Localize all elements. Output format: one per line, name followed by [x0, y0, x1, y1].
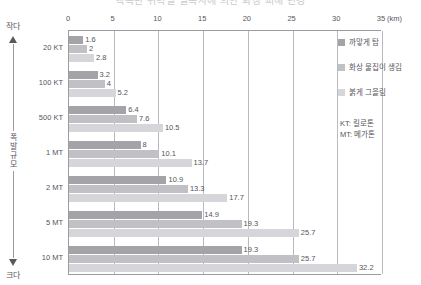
category-label: 20 KT [23, 43, 63, 52]
vertical-axis-bottom-label: 크다 [2, 271, 24, 280]
bar-value-label: 1.6 [85, 36, 95, 44]
category-labels: 20 KT100 KT500 KT1 MT2 MT5 MT10 MT [24, 30, 66, 275]
bar [69, 211, 202, 219]
bar [69, 255, 299, 263]
bar-group: 3.245.2 [69, 71, 381, 97]
bar-value-label: 8 [143, 141, 147, 149]
bar-value-label: 5.2 [118, 89, 128, 97]
bar-value-label: 10.9 [168, 176, 183, 184]
bar-value-label: 2.8 [96, 54, 106, 62]
category-label: 100 KT [23, 78, 63, 87]
vertical-axis-mid-label: 폭발규모 [8, 131, 19, 171]
bar [69, 264, 357, 272]
x-axis-unit-label: (km) [387, 14, 402, 23]
bar-value-label: 32.2 [359, 264, 374, 272]
bar-value-label: 13.3 [190, 185, 205, 193]
bar-group: 10.913.317.7 [69, 176, 381, 202]
bar-value-label: 19.3 [244, 246, 259, 254]
legend-swatch [338, 64, 345, 71]
bar-value-label: 3.2 [100, 71, 110, 79]
bar [69, 36, 83, 44]
x-tick-label: 30 [332, 14, 340, 23]
bar [69, 115, 137, 123]
x-tick-label: 15 [198, 14, 206, 23]
bar [69, 54, 94, 62]
bar-value-label: 25.7 [301, 229, 316, 237]
bar [69, 89, 116, 97]
vertical-axis-top-label: 작다 [2, 22, 24, 31]
bar [69, 176, 166, 184]
legend: 까맣게 탐화상 물집이 생김붉게 그을림 [338, 38, 418, 113]
bar-group: 14.919.325.7 [69, 211, 381, 237]
bar-value-label: 25.7 [301, 255, 316, 263]
abbreviation-note: KT: 킬로톤 MT: 메가톤 [340, 118, 375, 140]
arrow-down-icon [9, 259, 17, 266]
bar-value-label: 10.5 [165, 124, 180, 132]
bar-value-label: 17.7 [229, 194, 244, 202]
legend-item: 까맣게 탐 [338, 38, 418, 48]
bar [69, 141, 141, 149]
category-label: 1 MT [23, 148, 63, 157]
x-tick-label: 20 [243, 14, 251, 23]
x-tick-label: 5 [111, 14, 115, 23]
page-title: 핵폭탄 위력별 열복사에 의한 화상 피해 반경 [0, 0, 421, 6]
bar [69, 124, 163, 132]
bar-group: 6.47.610.5 [69, 106, 381, 132]
bar [69, 80, 105, 88]
chart-page: 핵폭탄 위력별 열복사에 의한 화상 피해 반경 작다 폭발규모 크다 20 K… [0, 0, 421, 285]
bar [69, 194, 227, 202]
bar-value-label: 13.7 [194, 159, 209, 167]
category-label: 10 MT [23, 253, 63, 262]
x-axis: 05101520253035(km) [68, 14, 381, 30]
bar-value-label: 4 [107, 80, 111, 88]
bar-value-label: 10.1 [161, 150, 176, 158]
bar [69, 185, 188, 193]
legend-swatch [338, 89, 345, 96]
bar-value-label: 6.4 [128, 106, 138, 114]
abbreviation-kt: KT: 킬로톤 [340, 118, 375, 129]
x-tick-label: 0 [66, 14, 70, 23]
category-label: 5 MT [23, 218, 63, 227]
bar [69, 220, 242, 228]
bar-value-label: 19.3 [244, 220, 259, 228]
bar-group: 1.622.8 [69, 36, 381, 62]
bar [69, 229, 299, 237]
vertical-magnitude-axis: 작다 폭발규모 크다 [2, 22, 24, 280]
legend-label: 붉게 그을림 [349, 88, 386, 97]
bar [69, 159, 192, 167]
category-label: 2 MT [23, 183, 63, 192]
legend-item: 붉게 그을림 [338, 88, 418, 98]
bar-value-label: 14.9 [204, 211, 219, 219]
abbreviation-mt: MT: 메가톤 [340, 129, 375, 140]
bar [69, 246, 242, 254]
x-tick-label: 25 [287, 14, 295, 23]
category-label: 500 KT [23, 113, 63, 122]
legend-swatch [338, 39, 345, 46]
bar [69, 106, 126, 114]
x-tick-label: 10 [153, 14, 161, 23]
legend-label: 화상 물집이 생김 [349, 63, 402, 72]
bar [69, 45, 87, 53]
plot-area: 1.622.83.245.26.47.610.5810.113.710.913.… [68, 30, 381, 275]
bar-value-label: 2 [89, 45, 93, 53]
legend-item: 화상 물집이 생김 [338, 63, 418, 73]
bar [69, 150, 159, 158]
bar-group: 19.325.732.2 [69, 246, 381, 272]
x-tick-label: 35 [377, 14, 385, 23]
bar [69, 71, 98, 79]
legend-label: 까맣게 탐 [349, 38, 379, 47]
bar-group: 810.113.7 [69, 141, 381, 167]
bar-value-label: 7.6 [139, 115, 149, 123]
arrow-up-icon [9, 36, 17, 43]
